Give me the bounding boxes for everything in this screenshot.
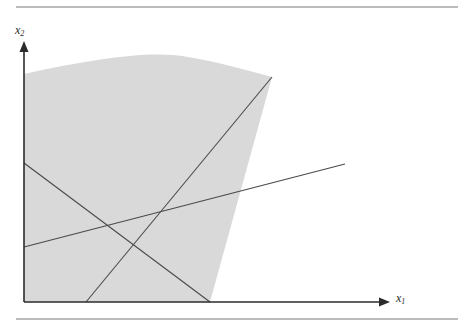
- y-axis-label-subscript: 2: [20, 29, 24, 38]
- x-axis-label: x1: [396, 292, 405, 304]
- diagram-canvas: [0, 0, 475, 335]
- feasible-region-shading: [24, 55, 272, 302]
- y-axis-label: x2: [15, 24, 24, 36]
- y-axis-arrowhead: [20, 41, 29, 52]
- x-axis-arrowhead: [379, 298, 390, 307]
- figure-container: x2 x1: [0, 0, 475, 335]
- x-axis-label-subscript: 1: [401, 297, 405, 306]
